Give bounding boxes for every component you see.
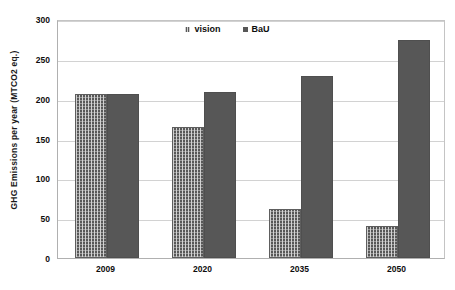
- x-axis-tick-label: 2050: [387, 264, 406, 274]
- bar-chart: GHG Emissions per year (MTCO2 eq.) 05010…: [0, 0, 455, 290]
- y-axis-tick-label: 50: [41, 214, 50, 224]
- y-axis-tick-label: 300: [36, 15, 50, 25]
- y-axis-tick-label: 0: [45, 254, 50, 264]
- y-axis-title-label: GHG Emissions per year (MTCO2 eq.): [9, 50, 19, 209]
- y-axis-title: GHG Emissions per year (MTCO2 eq.): [0, 0, 28, 259]
- x-axis-tick-label: 2009: [96, 264, 115, 274]
- bar-vision-2050[interactable]: [366, 226, 398, 258]
- y-axis-tick-label: 100: [36, 174, 50, 184]
- x-axis-tick-label: 2020: [193, 264, 212, 274]
- y-axis-tick-label: 200: [36, 95, 50, 105]
- x-axis-tick-label: 2035: [290, 264, 309, 274]
- bars-layer: [58, 21, 444, 258]
- bar-bau-2050[interactable]: [398, 40, 430, 258]
- y-axis-tick-label: 150: [36, 135, 50, 145]
- y-axis-tick-label: 250: [36, 55, 50, 65]
- y-axis-tick-labels: 050100150200250300: [26, 20, 54, 259]
- plot-area: [57, 20, 445, 259]
- bar-group: [58, 21, 446, 258]
- x-axis-tick-labels: 2009202020352050: [57, 262, 445, 282]
